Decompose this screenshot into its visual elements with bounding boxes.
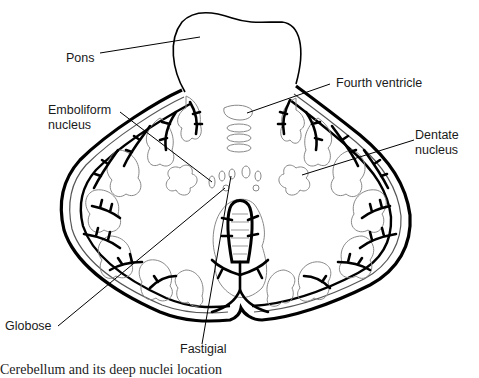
dentate-leader <box>302 140 414 175</box>
label-pons: Pons <box>66 51 95 66</box>
fourth-ventricle-leader <box>247 84 330 113</box>
label-globose: Globose <box>5 319 52 334</box>
label-emboliform-line1: Emboliform <box>48 103 111 118</box>
label-fourth-ventricle: Fourth ventricle <box>336 76 422 91</box>
figure-caption: Cerebellum and its deep nuclei location <box>0 362 222 378</box>
label-emboliform-nucleus: Emboliform nucleus <box>48 103 111 133</box>
label-dentate-nucleus: Dentate nucleus <box>415 128 459 158</box>
pons-leader <box>100 37 200 53</box>
label-fastigial: Fastigial <box>180 342 227 357</box>
label-emboliform-line2: nucleus <box>48 118 111 133</box>
vermis <box>212 201 268 313</box>
pons-outline <box>173 13 301 93</box>
label-dentate-line2: nucleus <box>415 143 459 158</box>
label-dentate-line1: Dentate <box>415 128 459 143</box>
